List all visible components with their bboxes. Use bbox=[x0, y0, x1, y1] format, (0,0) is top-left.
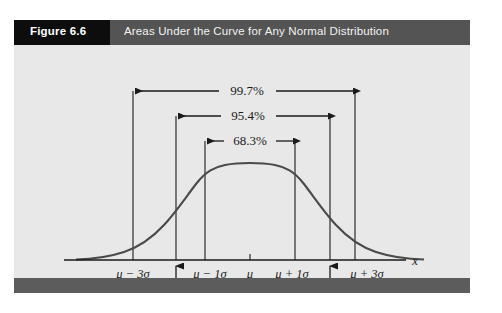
annotation-95-4-label: 95.4% bbox=[231, 108, 265, 123]
annotation-68-3: 68.3% bbox=[207, 133, 293, 148]
annotation-99-7-label: 99.7% bbox=[230, 83, 264, 98]
normal-curve bbox=[76, 163, 424, 260]
axis-tick-label-minus-1-sigma: μ − 1σ bbox=[192, 267, 227, 278]
figure-number-label: Figure 6.6 bbox=[30, 25, 86, 37]
axis-tick-label-minus-3-sigma: μ − 3σ bbox=[115, 267, 150, 278]
normal-distribution-chart: 99.7% 95.4% 68.3% μ − 3σ μ − 1σ μ μ + 1σ bbox=[14, 45, 470, 278]
x-axis-name-label: x bbox=[411, 254, 418, 268]
figure-panel: Figure 6.6 Areas Under the Curve for Any… bbox=[14, 20, 470, 293]
annotation-68-3-label: 68.3% bbox=[233, 133, 267, 148]
figure-plot-area: 99.7% 95.4% 68.3% μ − 3σ μ − 1σ μ μ + 1σ bbox=[14, 45, 470, 278]
figure-header-bar: Figure 6.6 Areas Under the Curve for Any… bbox=[14, 20, 470, 45]
figure-title: Areas Under the Curve for Any Normal Dis… bbox=[124, 25, 389, 37]
annotation-95-4: 95.4% bbox=[178, 108, 328, 123]
annotation-99-7: 99.7% bbox=[135, 83, 353, 98]
figure-footer-bar bbox=[14, 278, 470, 293]
axis-tick-label-plus-1-sigma: μ + 1σ bbox=[274, 267, 309, 278]
axis-tick-label-mu: μ bbox=[246, 267, 253, 278]
axis-tick-label-plus-3-sigma: μ + 3σ bbox=[349, 267, 384, 278]
